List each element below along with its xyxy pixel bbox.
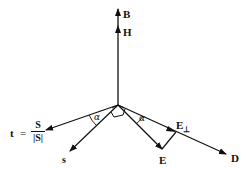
- vector-diagram: B H t = S |S| s E D E⊥ α α: [0, 0, 247, 172]
- arrowhead-h: [115, 25, 121, 33]
- vector-t: [46, 105, 118, 130]
- label-e: E: [159, 155, 166, 166]
- angle-label-alpha-right: α: [139, 114, 145, 123]
- label-s: s: [62, 155, 66, 165]
- fraction-denominator: |S|: [33, 133, 43, 143]
- fraction-numerator: S: [35, 120, 41, 130]
- label-h: H: [123, 27, 132, 38]
- fraction-s-over-abs-s: S |S|: [31, 120, 45, 143]
- label-d: D: [231, 153, 239, 164]
- label-t-equals: =: [20, 128, 26, 139]
- label-e-perp: E⊥: [176, 120, 190, 134]
- label-b: B: [123, 9, 130, 20]
- angle-label-alpha-left: α: [94, 113, 100, 122]
- label-e-perp-sub: ⊥: [183, 125, 190, 134]
- label-t: t: [10, 128, 14, 139]
- projection-line: [162, 132, 176, 149]
